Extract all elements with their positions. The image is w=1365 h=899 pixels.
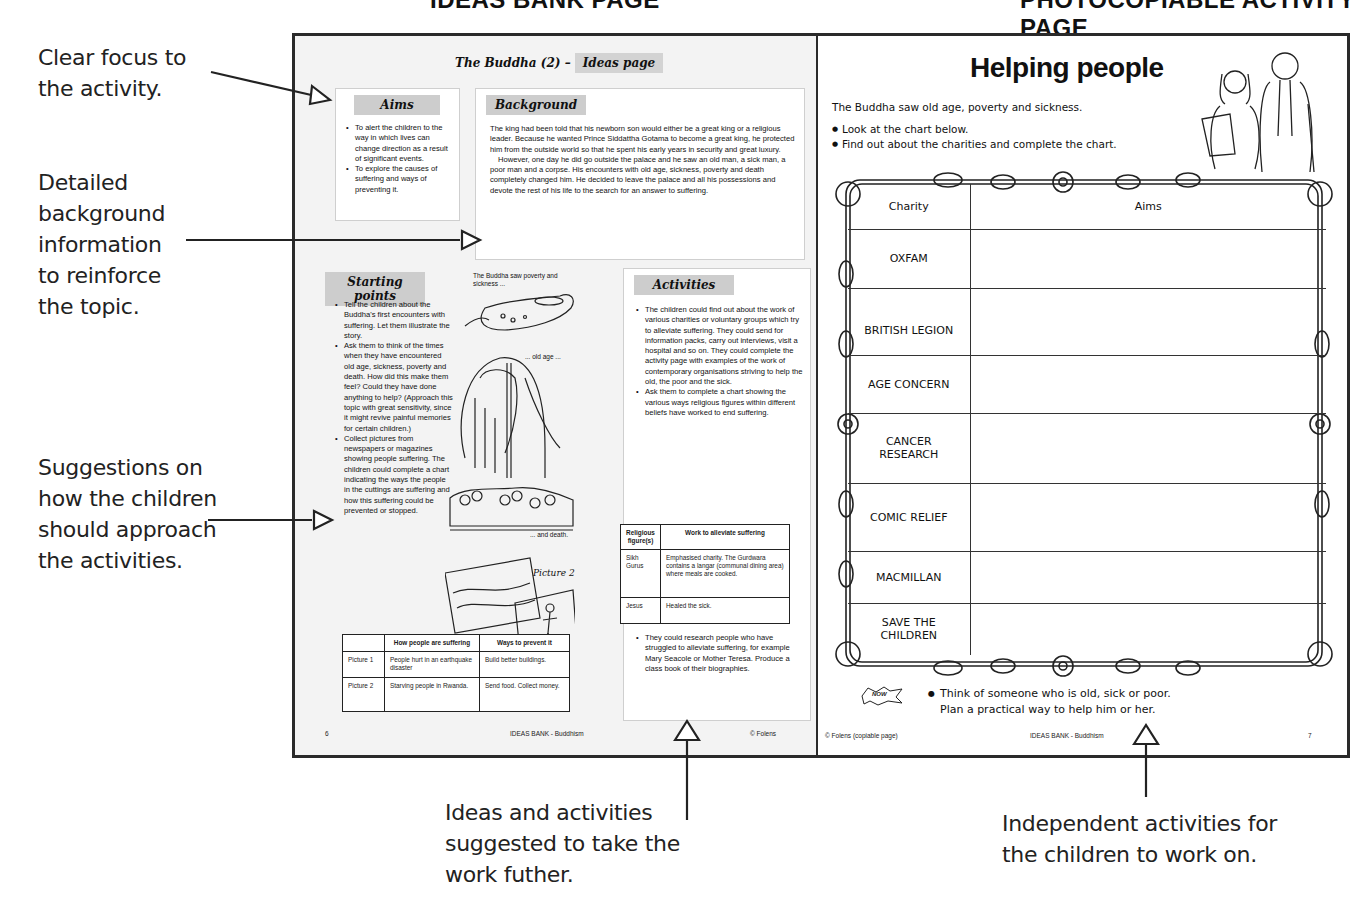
independent-task: Think of someone who is old, sick or poo… [928, 686, 1171, 718]
chart-row: SAVE THE CHILDREN [848, 603, 1326, 655]
aims-heading: Aims [354, 95, 440, 115]
religious-figures-table: Religious figure(s) Work to alleviate su… [620, 524, 790, 624]
table-header-row: Religious figure(s) Work to alleviate su… [621, 525, 790, 550]
annotation-independent: Independent activities for the children … [1002, 808, 1277, 870]
annotation-clear-focus: Clear focus to the activity. [38, 42, 186, 104]
charity-chart: Charity Aims OXFAM BRITISH LEGION AGE CO… [848, 184, 1326, 655]
left-series-label: IDEAS BANK - Buddhism [510, 730, 584, 737]
left-copyright: © Folens [750, 730, 776, 737]
suffering-table: How people are suffering Ways to prevent… [342, 634, 570, 712]
activity-item: Ask them to complete a chart showing the… [636, 387, 806, 418]
activity-item: They could research people who have stru… [636, 633, 796, 674]
aims-cell[interactable] [970, 229, 1326, 288]
right-series-label: IDEAS BANK - Buddhism [1030, 732, 1104, 739]
activities-heading: Activities [634, 275, 734, 295]
bullet-icon: ● [928, 686, 935, 702]
ideas-page-tag: Ideas page [575, 53, 664, 73]
annotation-ideas-further: Ideas and activities suggested to take t… [445, 797, 680, 890]
chart-header-row: Charity Aims [848, 184, 1326, 229]
aims-box: Aims To alert the children to the way in… [335, 88, 460, 221]
chart-header-charity: Charity [848, 184, 970, 229]
ideas-page-title: The Buddha (2) –Ideas page [455, 56, 663, 70]
starting-point-item: Ask them to think of the times when they… [335, 341, 453, 434]
aims-cell[interactable] [970, 551, 1326, 603]
background-paragraph: The king had been told that his newborn … [490, 124, 795, 155]
table-header-row: How people are suffering Ways to prevent… [343, 635, 570, 652]
ideas-bank-page-heading: IDEAS BANK PAGE [430, 0, 660, 14]
line-drawing [445, 268, 575, 638]
annotation-suggestions: Suggestions on how the children should a… [38, 452, 217, 576]
chart-row: MACMILLAN [848, 551, 1326, 603]
chart-row: COMIC RELIEF [848, 483, 1326, 551]
now-badge-icon: NOW [860, 686, 904, 706]
chart-row: AGE CONCERN [848, 355, 1326, 413]
aims-cell[interactable] [970, 603, 1326, 655]
chart-row: CANCER RESEARCH [848, 413, 1326, 483]
activity-page-title: Helping people [970, 52, 1164, 84]
aims-cell[interactable] [970, 413, 1326, 483]
activities-box: Activities The children could find out a… [623, 268, 811, 721]
activity-instructions: Look at the chart below. Find out about … [832, 122, 1117, 152]
book-spread: The Buddha (2) –Ideas page Aims To alert… [292, 33, 1350, 758]
starting-point-item: Collect pictures from newspapers or maga… [335, 434, 453, 516]
aims-cell[interactable] [970, 483, 1326, 551]
table-row: Jesus Healed the sick. [621, 598, 790, 624]
background-paragraph: However, one day he did go outside the p… [490, 155, 795, 196]
activity-item: The children could find out about the wo… [636, 305, 806, 387]
background-heading: Background [486, 95, 586, 115]
activity-intro: The Buddha saw old age, poverty and sick… [832, 100, 1082, 115]
instruction-item: Find out about the charities and complet… [832, 137, 1117, 152]
aims-item: To explore the causes of suffering and w… [346, 164, 456, 195]
chart-header-aims: Aims [970, 184, 1326, 229]
left-page-number: 6 [325, 730, 329, 737]
right-copyright: © Folens (copiable page) [825, 732, 898, 739]
aims-cell[interactable] [970, 355, 1326, 413]
background-box: Background The king had been told that h… [475, 88, 805, 260]
caption-death: ... and death. [530, 530, 568, 540]
starting-point-item: Tell the children about the Buddha's fir… [335, 300, 453, 341]
caption-old-age: ... old age ... [525, 352, 561, 362]
instruction-item: Look at the chart below. [832, 122, 1117, 137]
aims-item: To alert the children to the way in whic… [346, 123, 456, 164]
chart-row: OXFAM [848, 229, 1326, 288]
ideas-page: The Buddha (2) –Ideas page Aims To alert… [295, 36, 818, 755]
table-row: Picture 1 People hurt in an earthquake d… [343, 652, 570, 678]
right-page-number: 7 [1308, 732, 1312, 739]
chart-row: BRITISH LEGION [848, 288, 1326, 355]
table-row: Picture 2 Starving people in Rwanda. Sen… [343, 678, 570, 712]
buddha-encounters-illustration: The Buddha saw poverty and sickness ... [445, 268, 575, 638]
annotation-background-info: Detailed background information to reinf… [38, 167, 165, 322]
aims-cell[interactable] [970, 288, 1326, 355]
activity-page: Helping people The Buddha saw old age, p… [820, 36, 1347, 755]
table-row: Sikh Gurus Emphasised charity. The Gurdw… [621, 550, 790, 598]
caption-picture-2: Picture 2 [533, 568, 575, 578]
people-illustration [1190, 44, 1330, 174]
